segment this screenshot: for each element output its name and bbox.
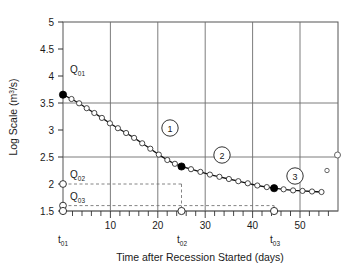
- y-axis-title: Log Scale (m3/s): [7, 78, 19, 155]
- filled-point-q03: [271, 185, 278, 192]
- segment-annotation-1-text: 1: [167, 124, 172, 134]
- outlier-point-1: [335, 152, 341, 158]
- recession-curve-figure: 5 4.5 4 3.5 3 2.5 2 1.5: [0, 0, 352, 269]
- x-tick-label-20: 20: [152, 220, 164, 231]
- outlier-point-2: [325, 168, 329, 172]
- axis-marker-t01: [59, 207, 66, 214]
- y-tick-label-2.5: 2.5: [40, 152, 54, 163]
- label-t02: t02: [177, 234, 187, 247]
- x-axis-minor-ticks: [73, 211, 329, 218]
- y-tick-label-3: 3: [48, 125, 54, 136]
- t-labels: t01 t02 t03: [58, 234, 280, 247]
- y-tick-label-1.5: 1.5: [40, 206, 54, 217]
- label-t03: t03: [270, 234, 280, 247]
- y-tick-label-2: 2: [48, 179, 54, 190]
- x-tick-label-30: 30: [200, 220, 212, 231]
- x-tick-label-40: 40: [247, 220, 259, 231]
- filled-point-q01: [59, 91, 66, 98]
- x-tick-labels: 10 20 30 40 50: [105, 220, 306, 231]
- segment-annotation-2-text: 2: [219, 151, 224, 161]
- axis-marker-t03: [271, 207, 278, 214]
- segment-annotation-3: 3: [287, 168, 303, 184]
- segment-annotation-2: 2: [214, 147, 230, 163]
- chart-canvas: 5 4.5 4 3.5 3 2.5 2 1.5: [0, 0, 352, 269]
- segment-annotation-1: 1: [162, 120, 178, 136]
- segment-annotation-3-text: 3: [292, 172, 297, 182]
- y-tick-label-4: 4: [48, 71, 54, 82]
- axis-marker-q02: [60, 181, 67, 188]
- y-tick-label-3.5: 3.5: [40, 98, 54, 109]
- y-tick-label-4.5: 4.5: [40, 44, 54, 55]
- axis-marker-t02: [178, 207, 185, 214]
- x-tick-label-10: 10: [105, 220, 117, 231]
- filled-point-q02: [178, 163, 185, 170]
- y-tick-labels: 5 4.5 4 3.5 3 2.5 2 1.5: [40, 17, 54, 217]
- y-tick-label-5: 5: [48, 17, 54, 28]
- label-t01: t01: [58, 234, 68, 247]
- x-tick-label-50: 50: [294, 220, 306, 231]
- x-axis-title: Time after Recession Started (days): [116, 251, 284, 263]
